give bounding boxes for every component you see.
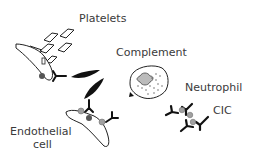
antibody-icon — [85, 100, 93, 112]
cic-icon — [166, 104, 208, 131]
endothelial-cell-label: Endothelial — [10, 126, 72, 138]
neutrophil-icon — [129, 66, 168, 99]
cic-label: CIC — [213, 105, 232, 117]
antibody-icon — [53, 71, 66, 81]
complement-label: Complement — [116, 47, 187, 59]
endothelial-cell-lower-icon — [66, 108, 109, 147]
neutrophil-label: Neutrophil — [185, 82, 242, 94]
complement-icon — [71, 70, 104, 99]
endothelial-cell-label-line2: cell — [33, 139, 52, 151]
antibody-icon — [106, 112, 118, 122]
platelets-label: Platelets — [79, 13, 126, 25]
